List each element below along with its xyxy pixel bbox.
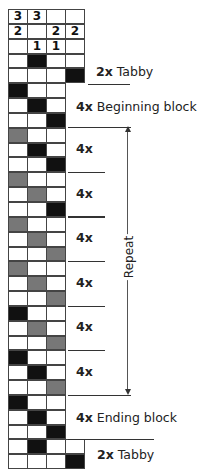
draft-cell <box>27 187 47 202</box>
draft-cell <box>8 410 28 425</box>
draft-cell <box>27 54 47 69</box>
draft-cell <box>8 128 28 143</box>
threading-number-cell <box>65 9 85 24</box>
treadling-row <box>8 261 84 276</box>
draft-cell <box>46 380 66 395</box>
tabby-top-divider <box>88 84 130 85</box>
draft-cell <box>27 321 47 336</box>
draft-cell <box>65 454 85 469</box>
beginning-count: 4x <box>76 99 93 114</box>
draft-cell <box>65 68 85 83</box>
draft-cell <box>27 336 47 351</box>
treadling-row <box>8 247 84 262</box>
treadling-row <box>8 83 84 98</box>
threading-number-cell <box>46 9 66 24</box>
draft-cell <box>27 83 47 98</box>
draft-cell <box>8 54 28 69</box>
treadling-row <box>8 98 84 113</box>
draft-cell <box>27 172 47 187</box>
draft-cell <box>8 425 28 440</box>
draft-cell <box>27 380 47 395</box>
draft-cell <box>27 98 47 113</box>
threading-header-row: 11 <box>8 39 84 54</box>
draft-cell <box>46 143 66 158</box>
draft-cell <box>8 247 28 262</box>
tabby-top-count: 2x <box>96 64 113 79</box>
treadling-row <box>8 321 84 336</box>
draft-cell <box>46 217 66 232</box>
draft-cell <box>46 350 66 365</box>
tabby-bottom-count: 2x <box>97 447 114 462</box>
treadling-row <box>8 128 84 143</box>
draft-cell <box>27 68 47 83</box>
draft-cell <box>65 439 85 454</box>
ending-divider <box>68 439 154 440</box>
draft-cell <box>27 395 47 410</box>
draft-cell <box>8 336 28 351</box>
draft-cell <box>8 439 28 454</box>
draft-cell <box>46 232 66 247</box>
draft-cell <box>8 68 28 83</box>
treadling-row <box>8 454 84 469</box>
repeat-label: Repeat <box>122 234 136 280</box>
repeat-block-label: 4x <box>76 230 93 245</box>
draft-cell <box>46 454 66 469</box>
treadling-row <box>8 365 84 380</box>
draft-cell <box>8 291 28 306</box>
draft-cell <box>27 157 47 172</box>
repeat-top-divider <box>68 127 131 128</box>
treadling-row <box>8 143 84 158</box>
draft-cell <box>46 202 66 217</box>
draft-cell <box>27 261 47 276</box>
treadling-row <box>8 113 84 128</box>
treadling-row <box>8 276 84 291</box>
draft-cell <box>46 172 66 187</box>
tabby-bottom-text: Tabby <box>114 447 154 462</box>
draft-cell <box>27 291 47 306</box>
draft-cell <box>46 306 66 321</box>
draft-cell <box>46 425 66 440</box>
threading-number-cell <box>8 39 28 54</box>
repeat-block-divider <box>68 395 131 396</box>
treadling-row <box>8 395 84 410</box>
repeat-block-divider <box>68 350 105 351</box>
draft-cell <box>46 439 66 454</box>
draft-cell <box>46 83 66 98</box>
draft-cell <box>27 247 47 262</box>
draft-cell <box>27 113 47 128</box>
draft-cell <box>27 143 47 158</box>
draft-cell <box>8 98 28 113</box>
draft-cell <box>27 439 47 454</box>
draft-cell <box>46 54 66 69</box>
draft-cell <box>8 172 28 187</box>
repeat-block-divider <box>68 306 105 307</box>
treadling-row <box>8 410 84 425</box>
draft-cell <box>46 365 66 380</box>
draft-cell <box>46 113 66 128</box>
draft-cell <box>27 350 47 365</box>
treadling-row <box>8 350 84 365</box>
draft-cell <box>8 350 28 365</box>
draft-cell <box>46 157 66 172</box>
draft-cell <box>8 276 28 291</box>
repeat-arrow-down-icon <box>125 389 131 395</box>
draft-cell <box>8 232 28 247</box>
draft-cell <box>8 395 28 410</box>
draft-cell <box>46 336 66 351</box>
treadling-row <box>8 172 84 187</box>
threading-number-cell: 3 <box>8 9 28 24</box>
treadling-row <box>8 425 84 440</box>
draft-cell <box>8 187 28 202</box>
repeat-block-label: 4x <box>76 364 93 379</box>
treadling-row <box>8 439 84 454</box>
treadling-row <box>8 187 84 202</box>
draft-cell <box>8 454 28 469</box>
tabby-bottom-label: 2x Tabby <box>97 447 154 462</box>
draft-cell <box>8 306 28 321</box>
ending-count: 4x <box>76 410 93 425</box>
threading-draft-grid: 3322211 <box>8 9 84 469</box>
draft-cell <box>46 68 66 83</box>
draft-cell <box>46 321 66 336</box>
threading-number-cell: 2 <box>65 24 85 39</box>
treadling-row <box>8 336 84 351</box>
